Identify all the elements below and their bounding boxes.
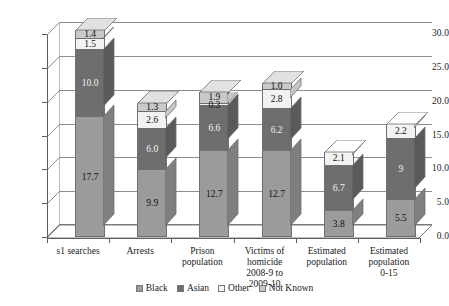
y-axis-tick <box>42 169 47 170</box>
bar-segment-front-face: 6.6 <box>200 106 228 150</box>
bar-segment-front-face: 1.5 <box>76 39 104 48</box>
bar-value-label: 9.9 <box>146 198 158 208</box>
bar-value-label: 2.1 <box>333 153 345 163</box>
bar-segment: 6.0 <box>137 129 167 170</box>
bar-segment-front-face: 12.7 <box>263 151 291 236</box>
bar-segment-front-face: 2.8 <box>263 90 291 108</box>
gridline-connector <box>47 56 60 69</box>
bar-segment-side-face <box>103 105 114 239</box>
legend-swatch-icon <box>218 285 225 292</box>
y-axis-line <box>47 35 48 238</box>
bar-segment-front-face: 3.8 <box>325 211 353 236</box>
gridline-connector <box>47 157 60 170</box>
bar-segment-front-face: 1.3 <box>138 103 166 111</box>
legend-swatch-icon <box>136 285 143 292</box>
bar-value-label: 9 <box>399 164 404 174</box>
bar-segment: 1.0 <box>262 83 292 90</box>
bar-value-label: 1.9 <box>208 92 220 102</box>
bar-segment: 1.4 <box>75 30 105 39</box>
x-axis-tick-label: s1 searches <box>47 246 109 257</box>
bar-value-label: 2.2 <box>395 126 407 136</box>
bar-segment: 1.5 <box>75 39 105 49</box>
bar-segment-front-face: 1.4 <box>76 30 104 38</box>
gridline-connector <box>47 90 60 103</box>
bar-segment-top-face <box>76 18 104 28</box>
x-axis-tick-label: Estimatedpopulation <box>296 246 358 268</box>
bar-segment: 1.3 <box>137 103 167 112</box>
bar-segment: 12.7 <box>262 151 292 237</box>
x-axis-tick-label: Estimatedpopulation0-15 <box>358 246 420 279</box>
bar-value-label: 1.4 <box>84 29 96 39</box>
gridline-connector <box>47 225 60 238</box>
bar-value-label: 12.7 <box>268 189 285 199</box>
legend-label: Not Known <box>269 283 314 293</box>
bar-value-label: 10.0 <box>82 78 99 88</box>
bar-segment: 0.3 <box>199 104 229 106</box>
legend-label: Black <box>146 283 168 293</box>
bar-segment-front-face: 2.1 <box>325 152 353 165</box>
bar-segment: 12.7 <box>199 151 229 237</box>
bar-segment-front-face: 10.0 <box>76 50 104 117</box>
bar-value-label: 1.0 <box>271 81 283 91</box>
chart-legend: BlackAsianOtherNot Known <box>0 283 449 293</box>
legend-label: Asian <box>187 283 209 293</box>
legend-item[interactable]: Other <box>218 283 250 293</box>
gridline-connector <box>47 124 60 137</box>
bar-segment-front-face: 6.7 <box>325 166 353 210</box>
bar-segment-front-face: 6.0 <box>138 129 166 169</box>
bar-segment-front-face: 1.9 <box>200 92 228 104</box>
bar-segment: 10.0 <box>75 50 105 118</box>
bar-segment-front-face: 17.7 <box>76 117 104 236</box>
bar-value-label: 1.5 <box>84 39 96 49</box>
bar-segment: 1.9 <box>199 92 229 105</box>
bar-value-label: 6.6 <box>208 123 220 133</box>
bar-value-label: 12.7 <box>206 189 223 199</box>
bar-column: 3.86.72.1 <box>324 236 354 237</box>
bar-segment-top-face <box>263 71 291 81</box>
bar-value-label: 3.8 <box>333 219 345 229</box>
bar-segment-top-face <box>200 80 228 90</box>
gridline-connector <box>47 191 60 204</box>
y-axis-tick <box>42 68 47 69</box>
bar-segment-top-face <box>138 91 166 101</box>
plot-area: 17.710.01.51.49.96.02.61.312.76.60.31.91… <box>47 22 432 237</box>
bar-segment-side-face <box>290 139 301 239</box>
legend-item[interactable]: Asian <box>177 283 209 293</box>
bar-segment: 2.6 <box>137 112 167 130</box>
bar-segment: 17.7 <box>75 117 105 237</box>
x-axis-tick <box>47 238 48 243</box>
bar-segment: 6.6 <box>199 106 229 151</box>
bar-value-label: 1.3 <box>146 102 158 112</box>
bar-segment-top-face <box>387 112 415 122</box>
bar-segment: 9.9 <box>137 170 167 237</box>
stacked-bar-chart: 17.710.01.51.49.96.02.61.312.76.60.31.91… <box>0 0 449 306</box>
bar-segment: 6.7 <box>324 166 354 211</box>
bar-value-label: 6.2 <box>271 125 283 135</box>
bar-segment-front-face: 0.3 <box>200 104 228 105</box>
x-axis-tick-label: Arrests <box>109 246 171 257</box>
x-axis-tick-label: Prisonpopulation <box>171 246 233 268</box>
bar-value-label: 2.6 <box>146 115 158 125</box>
y-axis-tick-label: 30.0 <box>407 29 449 39</box>
bar-column: 9.96.02.61.3 <box>137 236 167 237</box>
bar-value-label: 6.0 <box>146 144 158 154</box>
y-axis-tick-label: 25.0 <box>407 63 449 73</box>
y-axis-tick <box>42 203 47 204</box>
bar-segment-side-face <box>227 139 238 239</box>
bar-segment-top-face <box>325 140 353 150</box>
bar-column: 12.76.22.81.0 <box>262 236 292 237</box>
legend-label: Other <box>228 283 250 293</box>
legend-swatch-icon <box>177 285 184 292</box>
bar-segment: 2.1 <box>324 152 354 166</box>
bar-value-label: 5.5 <box>395 213 407 223</box>
y-axis-tick <box>42 102 47 103</box>
bar-value-label: 2.8 <box>271 94 283 104</box>
gridline-connector <box>47 22 60 35</box>
legend-item[interactable]: Black <box>136 283 168 293</box>
bar-segment-front-face: 12.7 <box>200 151 228 236</box>
bar-value-label: 6.7 <box>333 183 345 193</box>
bar-segment-front-face: 9.9 <box>138 170 166 236</box>
bar-value-label: 17.7 <box>82 172 99 182</box>
bar-segment: 3.8 <box>324 211 354 237</box>
legend-item[interactable]: Not Known <box>259 283 314 293</box>
